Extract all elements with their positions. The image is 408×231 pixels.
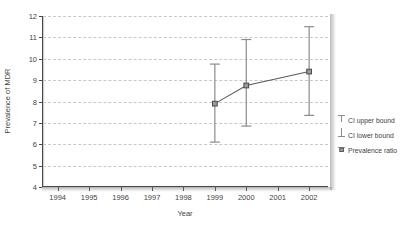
x-tick-label: 1997 <box>144 193 161 202</box>
legend-label-prevalence-ratio: Prevalence ratio <box>348 146 397 153</box>
y-tick-label: 7 <box>33 118 37 127</box>
y-tick-label: 9 <box>33 76 37 85</box>
data-point-marker <box>244 83 249 88</box>
plot-area: 456789101112 199419951996199719981999200… <box>42 16 328 187</box>
y-tick-label: 10 <box>29 54 37 63</box>
legend-label-ci-upper-bound: CI upper bound <box>348 116 395 123</box>
x-tick-label: 2001 <box>269 193 286 202</box>
y-tick-label: 4 <box>33 183 37 192</box>
page-edge-shadow-bottom <box>42 187 332 192</box>
chart-figure: 456789101112 199419951996199719981999200… <box>0 0 408 231</box>
legend-item-prevalence-ratio: Prevalence ratio <box>336 142 408 157</box>
square-marker-icon <box>336 142 347 157</box>
y-tick-label: 5 <box>33 161 37 170</box>
page-edge-shadow-right <box>330 14 336 190</box>
x-tick-label: 2000 <box>238 193 255 202</box>
legend-item-ci-upper-bound: CI upper bound <box>336 112 408 127</box>
x-tick-label: 1999 <box>207 193 224 202</box>
y-tick-label: 8 <box>33 97 37 106</box>
data-point-marker <box>307 69 312 74</box>
data-point-marker <box>212 101 217 106</box>
series-prevalence-ratio <box>42 16 328 187</box>
error-bar-upper-icon <box>336 112 347 127</box>
y-tick-label: 11 <box>29 33 37 42</box>
chart-legend: CI upper bound CI lower bound Prevalence… <box>336 112 408 157</box>
y-axis-label: Prevalence of MDR <box>3 68 12 133</box>
x-tick-label: 1994 <box>49 193 66 202</box>
legend-label-ci-lower-bound: CI lower bound <box>348 131 394 138</box>
x-tick-label: 1995 <box>81 193 98 202</box>
error-bar-lower-icon <box>336 127 347 142</box>
x-tick-label: 1996 <box>112 193 129 202</box>
x-tick-label: 2002 <box>301 193 318 202</box>
y-tick-label: 6 <box>33 140 37 149</box>
x-axis-label: Year <box>177 209 192 218</box>
legend-item-ci-lower-bound: CI lower bound <box>336 127 408 142</box>
x-tick-label: 1998 <box>175 193 192 202</box>
series-line <box>215 72 309 104</box>
y-tick-label: 12 <box>29 12 37 21</box>
